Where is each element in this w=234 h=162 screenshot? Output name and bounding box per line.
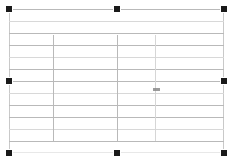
handle-top-right[interactable] [220, 5, 228, 13]
table-column-rule [53, 35, 54, 141]
text-caret [153, 88, 160, 91]
handle-top-left[interactable] [5, 5, 13, 13]
table-row-rule [9, 21, 224, 22]
table-column-rule [117, 35, 118, 141]
table-row-rule [9, 141, 224, 142]
handle-middle-left[interactable] [5, 77, 13, 85]
handle-bottom-right[interactable] [220, 149, 228, 157]
handle-middle-right[interactable] [220, 77, 228, 85]
handle-bottom-center[interactable] [113, 149, 121, 157]
handle-bottom-left[interactable] [5, 149, 13, 157]
table-row-rule [9, 33, 224, 34]
handle-top-center[interactable] [113, 5, 121, 13]
table-object[interactable] [9, 9, 224, 153]
editor-canvas[interactable] [0, 0, 234, 162]
